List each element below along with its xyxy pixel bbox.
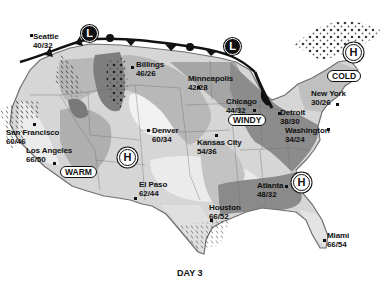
city-temp: 48/32: [257, 190, 283, 199]
city-dot: [197, 86, 200, 89]
city-name: New York: [311, 89, 346, 98]
city-washington: Washington 34/24: [285, 126, 329, 144]
city-temp: 46/26: [136, 69, 164, 78]
city-name: El Paso: [139, 180, 167, 189]
city-temp: 66/50: [26, 155, 72, 164]
city-dot: [327, 128, 330, 131]
city-name: Kansas City: [197, 138, 242, 147]
city-temp: 60/34: [152, 135, 179, 144]
city-name: Detroit: [280, 108, 305, 117]
city-dot: [131, 66, 134, 69]
city-name: Miami: [327, 231, 349, 240]
city-temp: 66/54: [327, 240, 349, 249]
city-name: San Francisco: [6, 128, 59, 137]
city-chicago: Chicago 44/32: [226, 97, 257, 115]
city-temp: 38/30: [280, 117, 305, 126]
city-name: Washington: [285, 126, 329, 135]
city-dot: [30, 34, 33, 37]
city-temp: 42/28: [188, 83, 233, 92]
city-temp: 34/24: [285, 135, 329, 144]
city-dot: [53, 162, 56, 165]
city-new-york: New York 30/26: [311, 89, 346, 107]
city-name: Chicago: [226, 97, 257, 106]
map-caption: DAY 3: [177, 268, 203, 278]
city-dot: [134, 197, 137, 200]
high-pressure-marker: H: [293, 174, 310, 191]
city-name: Seattle: [33, 32, 59, 41]
city-dot: [336, 103, 339, 106]
city-temp: 40/32: [33, 41, 59, 50]
city-temp: 60/46: [6, 137, 59, 146]
city-name: Denver: [152, 126, 179, 135]
city-seattle: Seattle 40/32: [33, 32, 59, 50]
city-billings: Billings 46/26: [136, 60, 164, 78]
warm-tag: WARM: [60, 166, 97, 178]
city-temp: 62/44: [139, 189, 167, 198]
city-temp: 30/26: [311, 98, 346, 107]
high-pressure-marker: H: [345, 44, 362, 61]
city-name: Houston: [209, 203, 241, 212]
city-houston: Houston 66/52: [209, 203, 241, 221]
city-detroit: Detroit 38/30: [280, 108, 305, 126]
city-temp: 66/52: [209, 212, 241, 221]
city-dot: [285, 185, 288, 188]
city-denver: Denver 60/34: [152, 126, 179, 144]
city-dot: [253, 109, 256, 112]
city-los-angeles: Los Angeles 66/50: [26, 146, 72, 164]
low-pressure-marker: L: [224, 38, 241, 55]
city-name: Atlanta: [257, 181, 283, 190]
city-atlanta: Atlanta 48/32: [257, 181, 283, 199]
city-miami: Miami 66/54: [327, 231, 349, 249]
city-dot: [323, 239, 326, 242]
city-dot: [278, 112, 281, 115]
high-pressure-marker: H: [119, 149, 136, 166]
city-temp: 54/36: [197, 147, 242, 156]
city-dot: [147, 129, 150, 132]
windy-tag: WINDY: [228, 114, 266, 126]
city-el-paso: El Paso 62/44: [139, 180, 167, 198]
city-minneapolis: Minneapolis 42/28: [188, 74, 233, 92]
low-pressure-marker: L: [81, 25, 98, 42]
city-kansas-city: Kansas City 54/36: [197, 138, 242, 156]
city-name: Los Angeles: [26, 146, 72, 155]
city-name: Billings: [136, 60, 164, 69]
cold-tag: COLD: [327, 70, 361, 82]
city-dot: [210, 219, 213, 222]
city-san-francisco: San Francisco 60/46: [6, 128, 59, 146]
city-dot: [33, 123, 36, 126]
city-dot: [215, 134, 218, 137]
city-name: Minneapolis: [188, 74, 233, 83]
